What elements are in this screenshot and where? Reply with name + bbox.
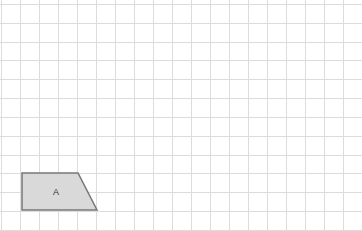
shape-a-label: A — [53, 187, 59, 197]
shape-a-trapezoid — [22, 173, 97, 210]
grid-diagram: A — [0, 0, 362, 231]
